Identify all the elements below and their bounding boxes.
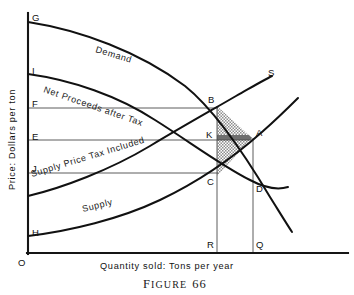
point-label-O: O — [18, 257, 26, 268]
point-label-B: B — [208, 94, 215, 105]
point-label-R: R — [207, 239, 214, 250]
y-axis-title: Price: Dollars per ton — [7, 89, 17, 190]
point-label-E: E — [32, 131, 39, 142]
figure-caption-initial: F — [143, 277, 151, 291]
point-label-C: C — [207, 176, 214, 187]
x-axis-title: Quantity sold: Tons per year — [100, 261, 234, 271]
point-label-H: H — [32, 227, 39, 238]
axis-point-labels: G I F E J H — [32, 12, 40, 238]
point-label-F: F — [32, 98, 38, 109]
figure-caption: FIGURE66 — [143, 277, 207, 291]
curve-label-supply: Supply — [81, 197, 114, 214]
point-label-G: G — [32, 12, 40, 23]
figure-caption-number: 66 — [192, 277, 207, 291]
point-label-K: K — [206, 129, 213, 140]
point-label-Q: Q — [256, 239, 264, 250]
economics-supply-demand-chart: G I F E J H S B K A C D R Q O Demand Net… — [0, 0, 354, 295]
point-label-S: S — [268, 67, 275, 78]
curve-labels: Demand Net Proceeds after Tax Supply Pri… — [30, 44, 146, 214]
figure-container: G I F E J H S B K A C D R Q O Demand Net… — [0, 0, 354, 295]
point-label-I: I — [32, 65, 35, 76]
figure-caption-word: IGURE — [151, 279, 187, 290]
point-label-A: A — [256, 127, 263, 138]
curve-label-supply-price-tax-included: Supply Price Tax Included — [30, 135, 146, 179]
axes — [27, 13, 348, 254]
curve-label-demand: Demand — [94, 44, 133, 65]
point-label-D: D — [256, 183, 263, 194]
